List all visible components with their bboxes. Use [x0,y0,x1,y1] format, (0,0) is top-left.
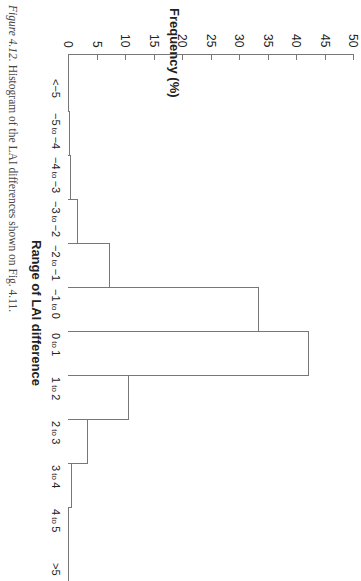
value-axis-tick-label: 30 [232,34,246,47]
histogram-bar [68,199,78,244]
histogram-bar [68,331,309,376]
x-axis-title: Range of LAI difference [29,240,44,386]
category-label: 0 to 1 [50,333,62,356]
value-axis-tick-label: 45 [318,34,332,47]
category-label: 1 to 2 [50,377,62,400]
value-axis-tick-label: 40 [289,34,303,47]
value-axis-tick-label: 25 [204,34,218,47]
value-axis-tick [68,55,69,60]
y-axis-title: Frequency (%) [167,8,182,98]
value-axis-tick-label: 5 [90,41,104,48]
value-axis-tick-label: 10 [118,34,132,47]
value-axis-tick-label: 20 [175,34,189,47]
histogram-bar [68,287,259,332]
value-axis-tick [97,55,98,60]
category-label: 4 to 5 [50,509,62,532]
value-axis-tick-label: 0 [61,41,75,48]
figure-caption: Figure 4.12. Histogram of the LAI differ… [7,5,19,312]
value-axis-tick [154,55,155,60]
category-label: <−5 [50,79,62,98]
value-axis-tick [325,55,326,60]
histogram-bar [68,463,72,508]
value-axis-tick [239,55,240,60]
figure-number: Figure 4.12. [7,5,19,62]
value-axis-tick [296,55,297,60]
value-axis-tick [211,55,212,60]
category-label: >5 [50,563,62,576]
category-label: −2 to −1 [50,245,62,281]
value-axis-tick [125,55,126,60]
histogram-bar [68,375,129,420]
category-label: −5 to −4 [50,113,62,149]
histogram-bar [68,419,88,464]
category-label: 2 to 3 [50,421,62,444]
histogram-bar [68,155,71,200]
category-label: −1 to 0 [50,289,62,319]
histogram-bar [68,243,110,288]
value-axis-tick [182,55,183,60]
histogram-bar [68,111,70,156]
category-label: −3 to −2 [50,201,62,237]
value-axis-tick-label: 35 [261,34,275,47]
category-label: −4 to −3 [50,157,62,193]
value-axis-tick [353,55,354,60]
value-axis-tick [268,55,269,60]
value-axis-tick-label: 15 [147,34,161,47]
caption-text: Histogram of the LAI differences shown o… [7,62,19,312]
value-axis-tick-label: 50 [346,34,360,47]
category-label: 3 to 4 [50,465,62,488]
